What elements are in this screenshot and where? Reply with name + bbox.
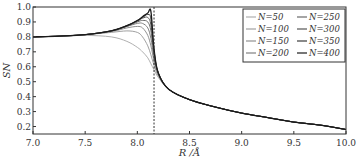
- y-tick-label: 0.9: [17, 17, 32, 27]
- x-tick-label: 9.5: [287, 138, 302, 148]
- legend-label: N=300: [308, 24, 340, 34]
- legend-label: N=150: [257, 36, 289, 46]
- legend-label: N=200: [257, 48, 289, 58]
- chart-svg: 7.07.58.08.59.09.510.00.20.30.40.50.60.7…: [0, 0, 359, 161]
- x-tick-label: 7.0: [26, 138, 41, 148]
- y-tick-label: 0.5: [17, 77, 32, 87]
- line-chart: 7.07.58.08.59.09.510.00.20.30.40.50.60.7…: [0, 0, 359, 161]
- y-tick-label: 0.4: [17, 92, 32, 102]
- y-tick-label: 0.8: [17, 32, 32, 42]
- y-tick-label: 1.0: [17, 2, 32, 12]
- x-tick-label: 7.5: [78, 138, 93, 148]
- x-tick-label: 8.0: [130, 138, 145, 148]
- legend-label: N=350: [308, 36, 340, 46]
- y-tick-label: 0.7: [17, 47, 32, 57]
- legend-label: N=100: [257, 24, 289, 34]
- legend-label: N=250: [308, 12, 340, 22]
- x-axis-label: R /Å: [178, 147, 200, 158]
- legend-label: N=400: [308, 48, 340, 58]
- x-tick-label: 9.0: [235, 138, 250, 148]
- y-tick-label: 0.2: [17, 122, 31, 132]
- y-tick-label: 0.3: [17, 107, 32, 117]
- x-tick-label: 10.0: [336, 138, 356, 148]
- y-tick-label: 0.6: [17, 62, 32, 72]
- y-axis-label: SN: [1, 61, 12, 78]
- legend-label: N=50: [257, 12, 284, 22]
